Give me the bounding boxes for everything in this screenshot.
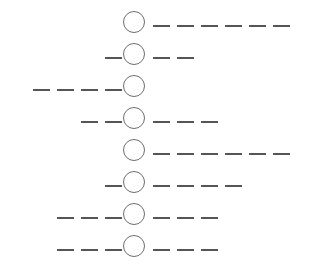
right-dash — [177, 217, 194, 219]
right-dash — [153, 249, 170, 251]
right-dash — [201, 153, 218, 155]
left-dash — [105, 217, 122, 219]
right-dash — [153, 25, 170, 27]
right-dash — [153, 217, 170, 219]
right-dash — [273, 153, 290, 155]
left-dash — [105, 185, 122, 187]
left-dash — [57, 249, 74, 251]
right-dash — [153, 185, 170, 187]
right-dash — [177, 57, 194, 59]
right-dash — [201, 185, 218, 187]
left-dash — [57, 217, 74, 219]
right-dash — [201, 249, 218, 251]
right-dash — [153, 153, 170, 155]
circle-node — [123, 43, 145, 65]
right-dash — [201, 25, 218, 27]
right-dash — [177, 25, 194, 27]
left-dash — [81, 89, 98, 91]
left-dash — [81, 217, 98, 219]
right-dash — [153, 121, 170, 123]
right-dash — [177, 185, 194, 187]
circle-node — [123, 171, 145, 193]
left-dash — [81, 249, 98, 251]
right-dash — [153, 57, 170, 59]
right-dash — [225, 153, 242, 155]
left-dash — [57, 89, 74, 91]
right-dash — [201, 217, 218, 219]
circle-node — [123, 75, 145, 97]
right-dash — [249, 25, 266, 27]
right-dash — [177, 249, 194, 251]
circle-node — [123, 235, 145, 257]
right-dash — [249, 153, 266, 155]
cropped-text-line — [70, 0, 300, 2]
left-dash — [81, 121, 98, 123]
right-dash — [225, 185, 242, 187]
right-dash — [177, 153, 194, 155]
circle-node — [123, 203, 145, 225]
circle-node — [123, 139, 145, 161]
right-dash — [273, 25, 290, 27]
left-dash — [105, 249, 122, 251]
left-dash — [105, 121, 122, 123]
right-dash — [225, 25, 242, 27]
left-dash — [105, 89, 122, 91]
right-dash — [177, 121, 194, 123]
left-dash — [33, 89, 50, 91]
left-dash — [105, 57, 122, 59]
right-dash — [201, 121, 218, 123]
circle-node — [123, 11, 145, 33]
circle-node — [123, 107, 145, 129]
